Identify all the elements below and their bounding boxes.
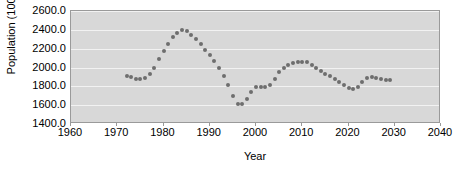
x-tick-label: 2010 xyxy=(281,126,321,138)
data-point xyxy=(282,66,286,70)
data-point xyxy=(388,78,392,82)
x-tick-label: 2020 xyxy=(328,126,368,138)
population-scatter-chart: Population (1000) 1400.01600.01800.02000… xyxy=(0,0,463,173)
data-point xyxy=(254,85,258,89)
data-point xyxy=(203,48,207,52)
data-point xyxy=(125,74,129,78)
data-point xyxy=(360,80,364,84)
data-point xyxy=(328,74,332,78)
data-point xyxy=(222,74,226,78)
data-point xyxy=(379,77,383,81)
data-point xyxy=(189,33,193,37)
x-axis-title: Year xyxy=(70,150,440,162)
data-point xyxy=(342,83,346,87)
data-point xyxy=(138,77,142,81)
data-point xyxy=(134,77,138,81)
x-tick-label: 2000 xyxy=(235,126,275,138)
data-point xyxy=(286,63,290,67)
x-tick-label: 2030 xyxy=(374,126,414,138)
x-axis-tick-labels: 196019701980199020002010202020302040 xyxy=(70,126,440,142)
data-point xyxy=(143,76,147,80)
data-point xyxy=(296,60,300,64)
x-tick-label: 1990 xyxy=(189,126,229,138)
y-tick-label: 2400.0 xyxy=(4,24,70,35)
data-point xyxy=(236,102,240,106)
data-point xyxy=(240,102,244,106)
data-point xyxy=(310,63,314,67)
data-point xyxy=(175,31,179,35)
x-tick-mark xyxy=(348,123,349,126)
data-point xyxy=(148,72,152,76)
data-point xyxy=(162,49,166,53)
data-point xyxy=(314,66,318,70)
data-point xyxy=(333,77,337,81)
data-point xyxy=(347,86,351,90)
x-tick-mark xyxy=(163,123,164,126)
y-tick-label: 1800.0 xyxy=(4,80,70,91)
data-point xyxy=(171,35,175,39)
data-point xyxy=(166,42,170,46)
data-point xyxy=(291,61,295,65)
x-tick-mark xyxy=(255,123,256,126)
data-point xyxy=(226,83,230,87)
data-point xyxy=(300,60,304,64)
x-tick-label: 1980 xyxy=(143,126,183,138)
x-tick-label: 2040 xyxy=(420,126,460,138)
data-point xyxy=(356,85,360,89)
x-tick-mark xyxy=(440,123,441,126)
data-point xyxy=(263,85,267,89)
data-point xyxy=(305,60,309,64)
x-tick-label: 1960 xyxy=(50,126,90,138)
x-tick-mark xyxy=(116,123,117,126)
data-point xyxy=(157,57,161,61)
data-series-population xyxy=(71,11,439,122)
data-point xyxy=(180,28,184,32)
data-point xyxy=(129,75,133,79)
data-point xyxy=(277,70,281,74)
data-point xyxy=(273,77,277,81)
x-tick-mark xyxy=(70,123,71,126)
y-axis-tick-labels: 1400.01600.01800.02000.02200.02400.02600… xyxy=(0,10,70,123)
data-point xyxy=(231,94,235,98)
x-tick-mark xyxy=(209,123,210,126)
y-tick-label: 2000.0 xyxy=(4,62,70,73)
data-point xyxy=(384,78,388,82)
data-point xyxy=(217,66,221,70)
data-point xyxy=(212,59,216,63)
data-point xyxy=(245,97,249,101)
data-point xyxy=(374,76,378,80)
data-point xyxy=(319,69,323,73)
data-point xyxy=(351,87,355,91)
y-tick-label: 2200.0 xyxy=(4,43,70,54)
data-point xyxy=(249,90,253,94)
data-point xyxy=(370,75,374,79)
data-point xyxy=(268,83,272,87)
plot-area xyxy=(70,10,440,123)
data-point xyxy=(208,53,212,57)
data-point xyxy=(185,29,189,33)
data-point xyxy=(337,80,341,84)
data-point xyxy=(194,37,198,41)
y-tick-label: 1600.0 xyxy=(4,99,70,110)
x-tick-mark xyxy=(394,123,395,126)
data-point xyxy=(323,72,327,76)
data-point xyxy=(199,42,203,46)
x-tick-mark xyxy=(301,123,302,126)
data-point xyxy=(259,85,263,89)
y-tick-label: 2600.0 xyxy=(4,5,70,16)
x-tick-label: 1970 xyxy=(96,126,136,138)
data-point xyxy=(365,76,369,80)
data-point xyxy=(152,66,156,70)
